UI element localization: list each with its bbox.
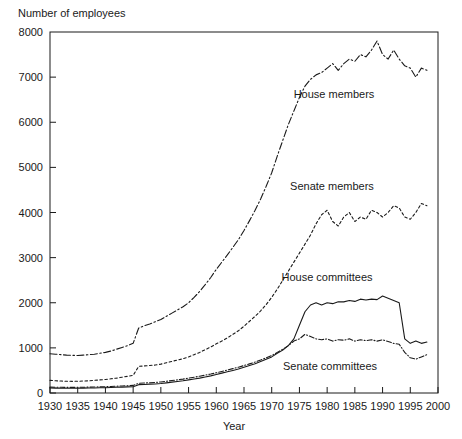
x-tick-label: 1950: [149, 400, 173, 412]
x-tick-label: 1935: [65, 400, 89, 412]
x-tick-label: 1945: [121, 400, 145, 412]
x-tick-label: 1960: [204, 400, 228, 412]
y-tick-label: 6000: [19, 116, 43, 128]
x-tick-label: 1975: [287, 400, 311, 412]
y-tick-label: 7000: [19, 71, 43, 83]
x-tick-label: 1990: [370, 400, 394, 412]
x-tick-label: 1985: [343, 400, 367, 412]
annotation-house-committees: House committees: [281, 271, 373, 283]
annotation-house-members: House members: [294, 88, 375, 100]
y-tick-label: 5000: [19, 161, 43, 173]
y-axis-title: Number of employees: [18, 7, 126, 19]
x-tick-label: 2000: [426, 400, 450, 412]
series-annotations: House membersSenate membersHouse committ…: [281, 88, 377, 372]
x-tick-label: 1930: [38, 400, 62, 412]
series-line-senate-members: [50, 203, 427, 381]
y-tick-label: 2000: [19, 297, 43, 309]
x-tick-label: 1965: [232, 400, 256, 412]
employees-line-chart: 010002000300040005000600070008000 193019…: [0, 0, 462, 439]
y-tick-label: 1000: [19, 342, 43, 354]
x-tick-label: 1995: [398, 400, 422, 412]
y-tick-label: 0: [37, 387, 43, 399]
x-axis-ticks: 1930193519401945195019551960196519701975…: [38, 387, 450, 412]
x-tick-label: 1970: [259, 400, 283, 412]
x-tick-label: 1955: [176, 400, 200, 412]
y-tick-label: 8000: [19, 26, 43, 38]
x-tick-label: 1940: [93, 400, 117, 412]
annotation-senate-members: Senate members: [290, 180, 374, 192]
x-tick-label: 1980: [315, 400, 339, 412]
y-tick-label: 3000: [19, 252, 43, 264]
x-axis-title: Year: [223, 420, 246, 432]
chart-canvas: 010002000300040005000600070008000 193019…: [0, 0, 462, 439]
plot-frame: [50, 32, 438, 393]
plot-border: [50, 32, 438, 393]
annotation-senate-committees: Senate committees: [283, 360, 378, 372]
y-tick-label: 4000: [19, 207, 43, 219]
series-line-house-committees: [50, 296, 427, 388]
